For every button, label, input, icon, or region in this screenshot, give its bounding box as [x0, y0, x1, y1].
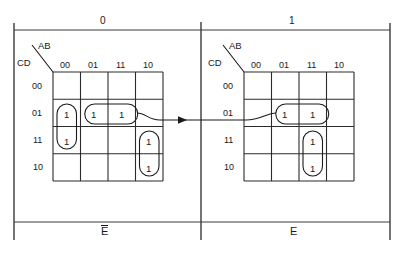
left-cell-r10-c10: 1 — [146, 164, 151, 174]
right-col-header-11: 11 — [307, 61, 316, 70]
left-col-header-11: 11 — [116, 61, 125, 70]
left-group-tail-curve — [137, 113, 160, 120]
transfer-arrow-head — [178, 116, 187, 124]
right-col-header-10: 10 — [334, 61, 344, 70]
left-row-header-11: 11 — [33, 136, 42, 145]
right-grid-lines — [244, 72, 354, 181]
right-cell-r11-c11: 1 — [310, 137, 315, 147]
left-cell-r01-c00: 1 — [64, 110, 69, 120]
frame-group — [14, 22, 390, 240]
left-cell-r11-c00: 1 — [64, 137, 69, 147]
right-axis-top-label: AB — [229, 41, 242, 51]
right-col-header-00: 00 — [251, 61, 261, 70]
left-cell-r01-c01: 1 — [91, 110, 96, 120]
left-axis-left-label: CD — [17, 58, 31, 68]
left-axis-top-label: AB — [38, 41, 51, 51]
transfer-arrow — [160, 116, 246, 124]
left-cell-r01-c11: 1 — [119, 110, 124, 120]
left-col-header-10: 10 — [143, 61, 153, 70]
right-cell-r01-c11: 1 — [310, 110, 315, 120]
right-cell-r01-c01: 1 — [282, 110, 287, 120]
left-col-header-01: 01 — [88, 61, 98, 70]
top-group-bit-1: 1 — [289, 16, 295, 26]
bottom-label-e: E — [290, 226, 297, 237]
right-row-header-00: 00 — [223, 82, 233, 91]
left-row-header-00: 00 — [32, 82, 42, 91]
bottom-label-e-bar-text: E — [101, 225, 108, 237]
right-row-header-01: 01 — [223, 109, 233, 118]
right-cell-r10-c11: 1 — [310, 164, 315, 174]
left-col-header-00: 00 — [60, 61, 70, 70]
right-row-header-11: 11 — [224, 136, 233, 145]
right-row-header-10: 10 — [224, 163, 234, 172]
left-row-header-10: 10 — [33, 163, 43, 172]
bottom-label-e-bar: E — [101, 225, 108, 237]
kmap-figure: 0 1 E E AB CD 00 01 11 10 00 01 11 10 1 … — [0, 0, 405, 253]
left-row-header-01: 01 — [32, 109, 42, 118]
right-col-header-01: 01 — [279, 61, 289, 70]
left-cell-r11-c10: 1 — [146, 137, 151, 147]
right-axis-left-label: CD — [208, 58, 222, 68]
top-group-bit-0: 0 — [100, 16, 106, 26]
kmap-svg-canvas — [0, 0, 405, 253]
